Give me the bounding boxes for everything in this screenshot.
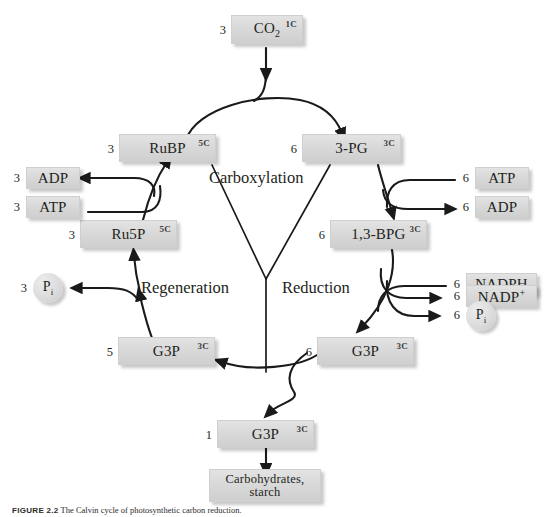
node-adp-right-label: ADP <box>487 200 518 215</box>
node-ru5p-carbon: 5C <box>160 224 171 234</box>
coef-g3p-out: 1 <box>198 428 212 443</box>
node-g3p-output-carbon: 3C <box>297 424 308 434</box>
node-atp-right-label: ATP <box>488 171 515 186</box>
node-3pg-carbon: 3C <box>384 138 395 148</box>
phase-label-reduction: Reduction <box>282 278 350 298</box>
node-adp-left[interactable]: ADP <box>26 167 80 189</box>
node-bpg-label: 1,3-BPG <box>351 227 405 242</box>
figure-caption-text: The Calvin cycle of photosynthetic carbo… <box>61 505 242 515</box>
coef-atp-right: 6 <box>455 171 469 186</box>
coef-pi-left: 3 <box>13 281 27 296</box>
node-3pg[interactable]: 3-PG 3C <box>302 134 401 162</box>
node-atp-right[interactable]: ATP <box>475 167 529 189</box>
arrow-pi-out-left <box>78 288 138 300</box>
node-adp-right[interactable]: ADP <box>475 196 529 218</box>
arrow-adp-out-right <box>383 190 449 209</box>
node-rubp-label: RuBP <box>149 141 186 156</box>
node-g3p-left[interactable]: G3P 3C <box>118 337 215 365</box>
node-bpg[interactable]: 1,3-BPG 3C <box>330 220 427 248</box>
node-g3p-output[interactable]: G3P 3C <box>217 420 314 448</box>
node-co2-label: CO2 <box>254 21 280 39</box>
node-carbohydrates-line1: Carbohydrates, <box>226 473 305 486</box>
node-co2-carbon: 1C <box>286 19 297 29</box>
figure-caption: FIGURE 2.2 The Calvin cycle of photosynt… <box>12 505 242 517</box>
arrow-co2-merge <box>254 72 266 101</box>
arrow-bpg-to-g3p <box>362 250 393 327</box>
coef-g3p-right: 6 <box>298 345 312 360</box>
node-g3p-right[interactable]: G3P 3C <box>317 337 414 365</box>
node-carbohydrates[interactable]: Carbohydrates, starch <box>209 469 321 502</box>
coef-ru5p: 3 <box>61 228 75 243</box>
node-g3p-left-carbon: 3C <box>198 341 209 351</box>
arrow-adp-out-left <box>86 178 154 196</box>
node-atp-left-label: ATP <box>39 200 66 215</box>
node-carbohydrates-line2: starch <box>249 486 280 499</box>
node-pi-left[interactable]: Pi <box>33 273 63 303</box>
coef-atp-left: 3 <box>6 200 20 215</box>
node-rubp-carbon: 5C <box>199 138 210 148</box>
node-g3p-right-label: G3P <box>352 344 379 359</box>
node-rubp[interactable]: RuBP 5C <box>119 134 216 162</box>
phase-divider-y <box>212 165 330 372</box>
node-pi-right-label: Pi <box>476 307 486 325</box>
figure-caption-label: FIGURE 2.2 <box>12 506 59 515</box>
coef-pi-right: 6 <box>446 308 460 323</box>
phase-label-regeneration: Regeneration <box>141 278 229 298</box>
node-co2[interactable]: CO2 1C <box>231 15 303 44</box>
coef-adp-right: 6 <box>455 200 469 215</box>
node-ru5p-label: Ru5P <box>111 227 145 242</box>
node-g3p-output-label: G3P <box>252 427 279 442</box>
node-pi-left-label: Pi <box>43 279 53 297</box>
arrow-g3p-to-ru5p-2 <box>134 256 140 292</box>
node-g3p-left-label: G3P <box>153 344 180 359</box>
calvin-cycle-diagram: Carboxylation Reduction Regeneration 3 C… <box>0 0 549 517</box>
phase-label-carboxylation: Carboxylation <box>209 168 303 188</box>
coef-bpg: 6 <box>311 228 325 243</box>
node-adp-left-label: ADP <box>38 171 69 186</box>
node-pi-right[interactable]: Pi <box>466 301 496 331</box>
node-ru5p[interactable]: Ru5P 5C <box>80 220 177 248</box>
coef-rubp: 3 <box>100 142 114 157</box>
coef-g3p-left: 5 <box>99 345 113 360</box>
node-3pg-label: 3-PG <box>335 141 367 156</box>
node-bpg-carbon: 3C <box>410 224 421 234</box>
node-g3p-right-carbon: 3C <box>397 341 408 351</box>
coef-adp-left: 3 <box>6 171 20 186</box>
coef-3pg: 6 <box>283 142 297 157</box>
coef-nadp-plus: 6 <box>446 289 460 304</box>
coef-co2: 3 <box>212 23 226 38</box>
arrow-g3p-to-ru5p <box>140 296 152 338</box>
arrow-atp-in-right <box>387 180 455 207</box>
node-atp-left[interactable]: ATP <box>26 196 80 218</box>
